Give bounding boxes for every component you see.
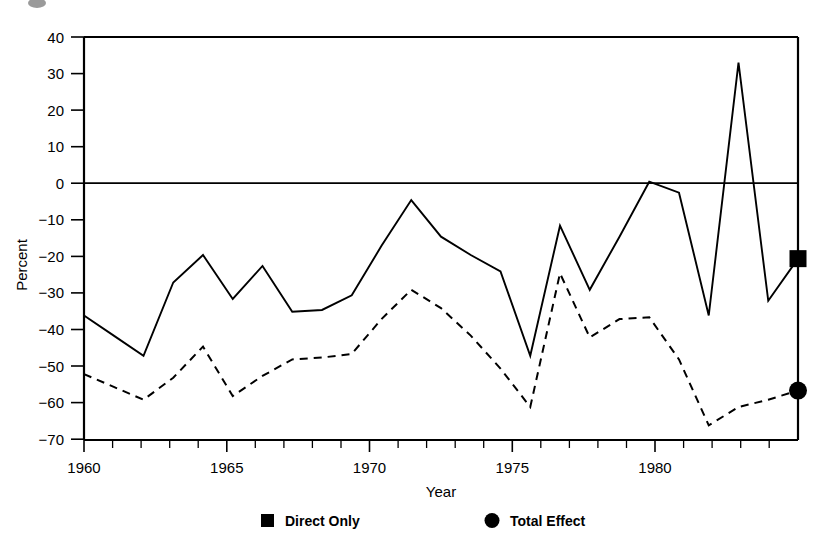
x-axis-title: Year xyxy=(426,483,456,500)
y-tick-label: −30 xyxy=(39,284,64,301)
y-tick-label: 30 xyxy=(47,65,64,82)
y-tick-label: 0 xyxy=(56,175,64,192)
end-marker-circle-total-effect xyxy=(789,382,807,400)
chart-legend: Direct Only Total Effect xyxy=(261,513,586,529)
y-tick-label: 10 xyxy=(47,138,64,155)
legend-label-direct-only: Direct Only xyxy=(285,513,360,529)
y-tick-label: 40 xyxy=(47,29,64,46)
page-scan-artifact xyxy=(28,0,46,8)
y-axis-tick-labels: 40 30 20 10 0 −10 −20 −30 −40 −50 −60 −7… xyxy=(39,29,64,448)
y-axis-title: Percent xyxy=(13,238,30,291)
legend-label-total-effect: Total Effect xyxy=(510,513,586,529)
y-tick-label: −50 xyxy=(39,358,64,375)
series-line-direct-only xyxy=(84,63,798,356)
y-tick-label: −70 xyxy=(39,431,64,448)
x-tick-label: 1965 xyxy=(210,459,243,476)
y-axis-ticks xyxy=(71,37,84,439)
y-tick-label: −40 xyxy=(39,321,64,338)
y-tick-label: −10 xyxy=(39,211,64,228)
y-tick-label: −60 xyxy=(39,394,64,411)
x-tick-label: 1975 xyxy=(496,459,529,476)
y-tick-label: 20 xyxy=(47,102,64,119)
y-tick-label: −20 xyxy=(39,248,64,265)
percent-by-year-line-chart: 40 30 20 10 0 −10 −20 −30 −40 −50 −60 −7… xyxy=(0,0,818,550)
x-tick-label: 1980 xyxy=(638,459,671,476)
chart-figure: 40 30 20 10 0 −10 −20 −30 −40 −50 −60 −7… xyxy=(0,0,818,550)
x-tick-label: 1960 xyxy=(67,459,100,476)
legend-square-marker-icon xyxy=(261,514,274,527)
x-axis-tick-labels: 1960 1965 1970 1975 1980 xyxy=(67,459,671,476)
x-axis-minor-ticks xyxy=(113,440,770,448)
end-marker-square-direct-only xyxy=(790,250,807,267)
legend-circle-marker-icon xyxy=(485,513,500,528)
x-tick-label: 1970 xyxy=(353,459,386,476)
series-line-total-effect xyxy=(84,273,798,425)
